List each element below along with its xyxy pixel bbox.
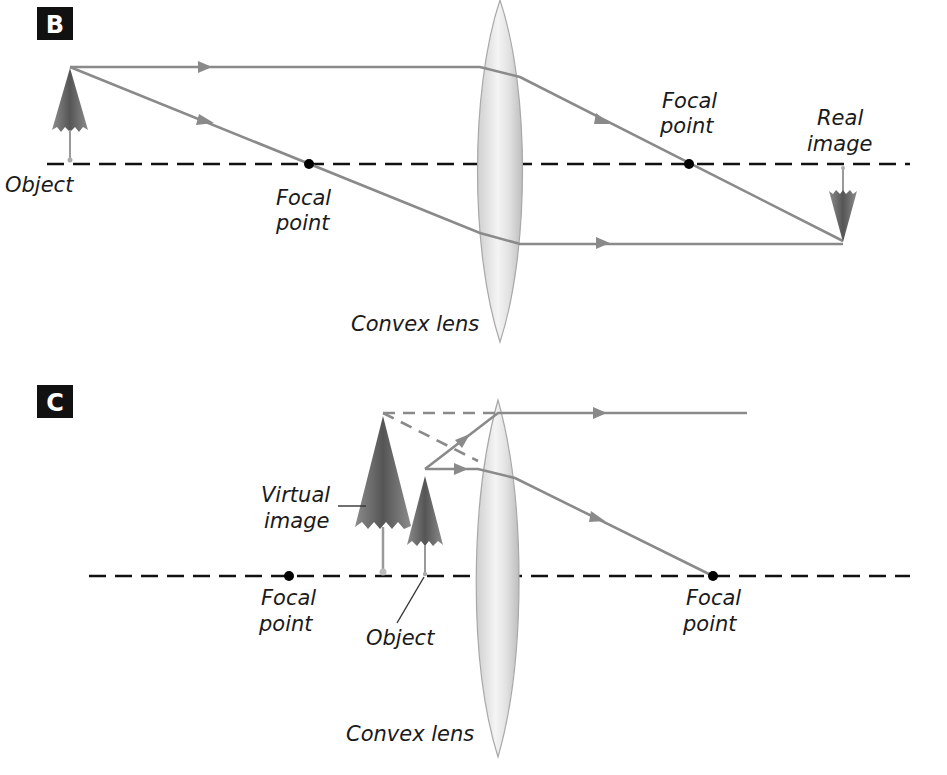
convex-lens-b: [478, 0, 523, 342]
leader-object-c: [397, 577, 424, 623]
label-focal-right-b-1: Focal: [662, 89, 717, 113]
focal-point-right-b: [684, 159, 694, 169]
arrow-icon: [454, 463, 468, 475]
arrow-icon: [596, 237, 610, 249]
lens-diagram: B Object Fo: [0, 0, 947, 775]
ray-parallel-b: [70, 67, 843, 241]
label-real-image-b-2: image: [807, 132, 872, 156]
panel-c-badge: C: [37, 385, 73, 418]
panel-b-letter: B: [46, 11, 64, 39]
arrow-icon: [593, 407, 607, 419]
umbrella-object-b: [52, 68, 88, 163]
label-focal-right-c-2: point: [682, 612, 737, 636]
label-focal-left-b-1: Focal: [276, 186, 331, 210]
panel-c: C: [37, 385, 910, 757]
rays-b: [70, 61, 843, 249]
focal-point-left-b: [304, 159, 314, 169]
label-lens-c: Convex lens: [346, 722, 474, 746]
panel-c-letter: C: [46, 389, 64, 417]
ray-through-center-c: [425, 413, 747, 469]
arrow-icon: [455, 434, 470, 448]
panel-b-badge: B: [37, 7, 73, 40]
umbrella-real-image-b: [829, 166, 857, 242]
label-object-b: Object: [5, 173, 74, 197]
label-focal-right-b-2: point: [659, 114, 714, 138]
ray-to-focus-c: [425, 469, 713, 576]
virtual-rays-c: [383, 413, 498, 461]
label-object-c: Object: [366, 626, 435, 650]
label-focal-left-b-2: point: [275, 211, 330, 235]
convex-lens-c: [476, 400, 519, 757]
focal-point-right-c: [708, 571, 718, 581]
arrow-icon: [198, 61, 212, 73]
label-lens-b: Convex lens: [351, 312, 479, 336]
arrow-icon: [589, 511, 605, 522]
panel-b: B Object Fo: [5, 0, 910, 342]
label-virtual-image-c-2: image: [264, 509, 329, 533]
rays-c: [425, 407, 747, 576]
label-focal-right-c-1: Focal: [686, 586, 741, 610]
arrow-icon: [594, 113, 610, 124]
label-focal-left-c-2: point: [258, 612, 313, 636]
umbrella-object-c: [407, 476, 443, 576]
label-virtual-image-c-1: Virtual: [261, 483, 330, 507]
label-real-image-b-1: Real: [817, 106, 863, 130]
ray-through-focus-b: [70, 67, 843, 244]
umbrella-virtual-image-c: [355, 416, 411, 576]
label-focal-left-c-1: Focal: [261, 586, 316, 610]
focal-point-left-c: [284, 571, 294, 581]
